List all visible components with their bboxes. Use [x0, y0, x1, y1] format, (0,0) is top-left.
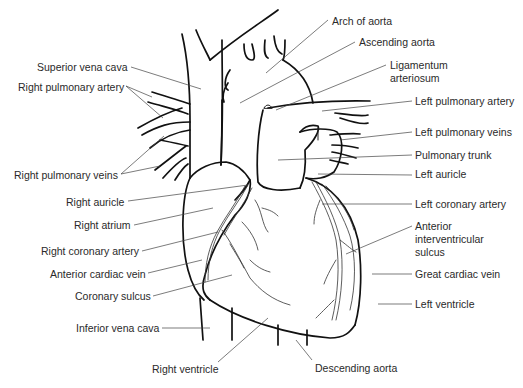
label-ligamentum-arteriosum-line1: Ligamentum [390, 59, 448, 71]
svc-left-wall [182, 34, 190, 178]
leader-anterior-cardiac-vein [148, 260, 202, 273]
label-right-auricle: Right auricle [66, 196, 124, 208]
label-right-coronary-artery: Right coronary artery [41, 245, 139, 257]
leader-descending-aorta [296, 340, 312, 360]
label-left-ventricle: Left ventricle [415, 298, 475, 310]
label-left-pulmonary-veins: Left pulmonary veins [415, 126, 512, 138]
leader-right-auricle [128, 185, 248, 201]
label-inferior-vena-cava: Inferior vena cava [76, 322, 159, 334]
leader-right-ventricle [218, 318, 268, 362]
label-left-auricle: Left auricle [415, 168, 466, 180]
label-right-atrium: Right atrium [74, 219, 131, 231]
leader-superior-vena-cava [131, 67, 201, 89]
label-left-coronary-artery: Left coronary artery [415, 198, 506, 210]
label-right-pulmonary-veins: Right pulmonary veins [14, 169, 118, 181]
heart-anatomy-diagram: Superior vena cava Right pulmonary arter… [0, 0, 523, 388]
label-right-ventricle: Right ventricle [152, 363, 219, 375]
label-arch-of-aorta: Arch of aorta [332, 15, 392, 27]
label-descending-aorta: Descending aorta [315, 362, 397, 374]
label-ascending-aorta: Ascending aorta [359, 36, 435, 48]
label-anterior-interventricular-sulcus-line2: interventricular [415, 233, 484, 245]
label-left-pulmonary-artery: Left pulmonary artery [415, 95, 514, 107]
leader-right-pulmonary-artery [126, 86, 163, 118]
label-superior-vena-cava: Superior vena cava [37, 61, 127, 73]
label-coronary-sulcus: Coronary sulcus [75, 290, 151, 302]
leader-right-atrium [134, 208, 213, 225]
label-ligamentum-arteriosum-line2: arteriosum [390, 72, 440, 84]
leader-left-auricle [318, 174, 412, 175]
leader-right-coronary-artery [142, 232, 218, 251]
leader-ascending-aorta [240, 42, 355, 103]
label-great-cardiac-vein: Great cardiac vein [415, 268, 500, 280]
label-pulmonary-trunk: Pulmonary trunk [415, 149, 491, 161]
label-anterior-cardiac-vein: Anterior cardiac vein [50, 268, 146, 280]
label-right-pulmonary-artery: Right pulmonary artery [18, 81, 124, 93]
label-anterior-interventricular-sulcus-line1: Anterior [415, 220, 452, 232]
leader-left-pulmonary-artery [322, 101, 412, 111]
label-anterior-interventricular-sulcus-line3: sulcus [415, 246, 445, 258]
leader-coronary-sulcus [153, 275, 232, 296]
leader-ligamentum-arteriosum [276, 65, 386, 110]
